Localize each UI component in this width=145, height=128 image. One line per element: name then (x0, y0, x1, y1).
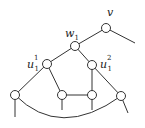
label-u12: u21 (100, 54, 112, 73)
node-v (102, 24, 111, 33)
node-b1 (11, 91, 20, 100)
node-u11 (43, 60, 52, 69)
edge-v-w1 (75, 28, 106, 46)
node-u12 (88, 61, 97, 70)
edge-b1-b4-arc (15, 95, 121, 118)
node-b3 (88, 91, 97, 100)
label-v: v (107, 6, 114, 19)
node-b4 (117, 92, 126, 101)
graph-diagram: v w1 u11 u21 (0, 0, 145, 128)
label-w1: w1 (65, 27, 79, 42)
edge-u11-b2 (47, 64, 62, 95)
node-b2 (58, 91, 67, 100)
label-u11: u11 (27, 54, 39, 73)
node-w1 (71, 42, 80, 51)
